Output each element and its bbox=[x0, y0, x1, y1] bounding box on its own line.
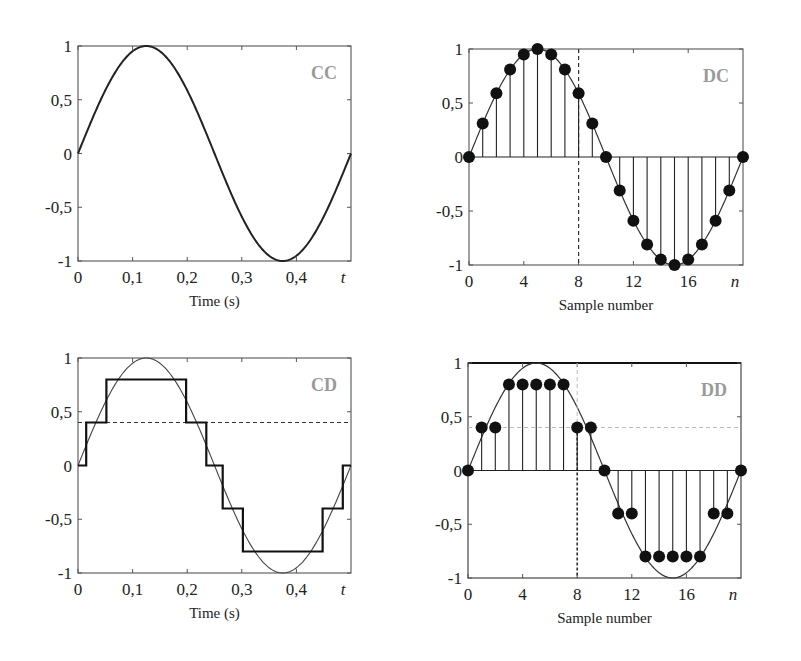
x-axis-symbol: t bbox=[341, 580, 347, 599]
y-tick-label: -1 bbox=[448, 569, 462, 588]
x-tick-label: 0,3 bbox=[231, 580, 252, 599]
sample-marker bbox=[545, 48, 557, 60]
y-tick-label: 0,5 bbox=[51, 91, 72, 110]
sample-marker bbox=[708, 508, 720, 520]
sample-marker bbox=[544, 379, 556, 391]
sample-marker bbox=[735, 465, 747, 477]
y-tick-label: 0 bbox=[454, 462, 463, 481]
y-tick-label: 0 bbox=[455, 148, 464, 167]
x-tick-label: 12 bbox=[623, 585, 640, 604]
y-tick-label: 1 bbox=[454, 354, 463, 373]
x-tick-label: 0,1 bbox=[122, 580, 143, 599]
sample-marker bbox=[599, 465, 611, 477]
x-tick-label: 4 bbox=[518, 585, 527, 604]
x-tick-label: 0,3 bbox=[231, 268, 252, 287]
chart-cd: 10,50-0,5-100,10,20,30,4tTime (s)CD bbox=[45, 349, 351, 622]
panel-label: DC bbox=[703, 66, 729, 86]
sample-marker bbox=[585, 422, 597, 434]
sample-marker bbox=[476, 422, 488, 434]
sample-marker bbox=[462, 465, 474, 477]
sample-marker bbox=[600, 151, 612, 163]
chart-dd: 10,50-0,5-10481216nSample numberDD bbox=[435, 354, 747, 626]
sample-marker bbox=[612, 508, 624, 520]
sample-marker bbox=[559, 64, 571, 76]
sample-marker bbox=[463, 151, 475, 163]
y-tick-label: 0 bbox=[64, 145, 73, 164]
sample-marker bbox=[504, 64, 516, 76]
x-tick-label: 8 bbox=[573, 585, 582, 604]
sample-marker bbox=[490, 87, 502, 99]
sample-marker bbox=[682, 254, 694, 266]
sample-marker bbox=[626, 508, 638, 520]
sample-marker bbox=[627, 215, 639, 227]
y-tick-label: 0,5 bbox=[51, 403, 72, 422]
chart-dc: 10,50-0,5-10481216nSample numberDC bbox=[436, 40, 749, 313]
y-tick-label: -0,5 bbox=[436, 202, 463, 221]
sample-marker bbox=[641, 238, 653, 250]
x-tick-label: 0,1 bbox=[122, 268, 143, 287]
sample-marker bbox=[737, 151, 749, 163]
sample-marker bbox=[696, 238, 708, 250]
y-tick-label: -0,5 bbox=[435, 515, 462, 534]
x-tick-label: 12 bbox=[625, 272, 642, 291]
y-tick-label: -1 bbox=[58, 564, 72, 583]
sample-marker bbox=[503, 379, 515, 391]
x-axis-symbol: n bbox=[729, 585, 738, 604]
figure: 10,50-0,5-100,10,20,30,4tTime (s)CC10,50… bbox=[0, 0, 801, 661]
y-tick-label: 1 bbox=[64, 349, 73, 368]
x-tick-label: 0,4 bbox=[286, 268, 308, 287]
sample-marker bbox=[710, 215, 722, 227]
sample-marker bbox=[530, 379, 542, 391]
y-tick-label: 1 bbox=[64, 37, 73, 56]
quantized-step-signal bbox=[78, 380, 351, 552]
y-tick-label: -0,5 bbox=[45, 510, 72, 529]
x-axis-label: Time (s) bbox=[189, 605, 240, 622]
sample-marker bbox=[653, 551, 665, 563]
panel-label: CC bbox=[311, 63, 337, 83]
x-tick-label: 0 bbox=[465, 272, 474, 291]
x-axis-label: Sample number bbox=[557, 610, 652, 626]
x-axis-symbol: n bbox=[731, 272, 740, 291]
y-tick-label: -1 bbox=[58, 252, 72, 271]
x-tick-label: 0 bbox=[74, 580, 83, 599]
sample-marker bbox=[723, 184, 735, 196]
sample-marker bbox=[655, 254, 667, 266]
y-tick-label: -0,5 bbox=[45, 198, 72, 217]
sample-marker bbox=[614, 184, 626, 196]
x-axis-label: Sample number bbox=[559, 297, 654, 313]
sample-marker bbox=[517, 379, 529, 391]
x-tick-label: 16 bbox=[680, 272, 697, 291]
y-tick-label: -1 bbox=[449, 256, 463, 275]
sample-marker bbox=[573, 87, 585, 99]
x-axis-symbol: t bbox=[341, 268, 347, 287]
x-tick-label: 4 bbox=[520, 272, 529, 291]
sample-marker bbox=[667, 551, 679, 563]
x-tick-label: 16 bbox=[678, 585, 695, 604]
y-tick-label: 1 bbox=[455, 40, 464, 59]
x-tick-label: 0 bbox=[464, 585, 473, 604]
sample-marker bbox=[680, 551, 692, 563]
y-tick-label: 0,5 bbox=[441, 408, 462, 427]
sample-marker bbox=[586, 118, 598, 130]
x-axis-label: Time (s) bbox=[189, 293, 240, 310]
sample-marker bbox=[571, 422, 583, 434]
chart-cc: 10,50-0,5-100,10,20,30,4tTime (s)CC bbox=[45, 37, 351, 310]
panel-label: DD bbox=[701, 380, 727, 400]
sample-marker bbox=[639, 551, 651, 563]
sample-marker bbox=[518, 48, 530, 60]
sample-marker bbox=[558, 379, 570, 391]
sample-marker bbox=[669, 259, 681, 271]
sample-marker bbox=[694, 551, 706, 563]
panel-label: CD bbox=[311, 375, 337, 395]
y-tick-label: 0,5 bbox=[442, 94, 463, 113]
sample-marker bbox=[477, 118, 489, 130]
sample-marker bbox=[532, 43, 544, 55]
sample-marker bbox=[721, 508, 733, 520]
x-tick-label: 0,4 bbox=[286, 580, 308, 599]
y-tick-label: 0 bbox=[64, 457, 73, 476]
x-tick-label: 0,2 bbox=[177, 268, 198, 287]
x-tick-label: 0,2 bbox=[177, 580, 198, 599]
x-tick-label: 8 bbox=[574, 272, 583, 291]
sample-marker bbox=[489, 422, 501, 434]
x-tick-label: 0 bbox=[74, 268, 83, 287]
